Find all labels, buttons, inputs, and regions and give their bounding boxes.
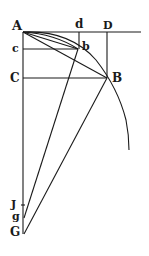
label-B: B — [112, 72, 122, 84]
label-C: C — [10, 72, 20, 84]
label-b: b — [82, 41, 90, 52]
chord-A-B — [23, 32, 107, 78]
line-b-g — [24, 49, 78, 218]
large-arc-A-B-end — [23, 32, 129, 150]
label-J: J — [11, 199, 16, 210]
line-B-G — [24, 78, 107, 234]
label-D: D — [103, 20, 113, 31]
label-g: g — [12, 211, 20, 222]
label-c: c — [12, 43, 19, 54]
label-A: A — [12, 19, 22, 32]
label-d: d — [75, 18, 83, 30]
geometry-diagram: A d D c b C B J g G — [0, 0, 149, 256]
label-G: G — [10, 226, 20, 238]
diagram-lines — [0, 0, 149, 256]
